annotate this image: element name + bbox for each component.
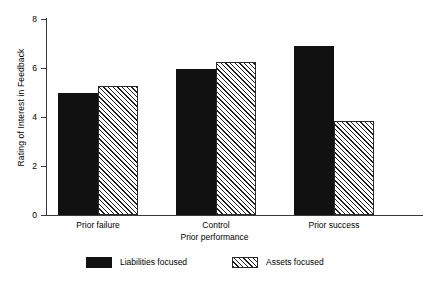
bar-control-assets-focused	[216, 62, 256, 215]
bar-control-liabilities-focused	[176, 69, 216, 215]
y-tick-label: 0	[24, 211, 37, 220]
legend-label: Assets focused	[266, 257, 324, 268]
legend-swatch	[86, 257, 112, 268]
x-tick-label: Control	[166, 220, 266, 230]
y-tick-label: 8	[24, 15, 37, 24]
legend-label: Liabilities focused	[120, 257, 187, 268]
x-axis-line	[46, 215, 423, 216]
y-axis-title: Rating of Interest in Feedback	[14, 0, 28, 215]
chart-legend: Liabilities focusedAssets focused	[0, 255, 429, 273]
y-tick-label: 4	[24, 113, 37, 122]
bar-prior-success-liabilities-focused	[294, 46, 334, 215]
bar-prior-failure-assets-focused	[98, 86, 138, 215]
bar-prior-failure-liabilities-focused	[58, 93, 98, 216]
y-tick-label: 2	[24, 162, 37, 171]
bar-prior-success-assets-focused	[334, 121, 374, 215]
legend-swatch	[232, 257, 258, 268]
x-tick-label: Prior failure	[48, 220, 148, 230]
legend-entry: Assets focused	[232, 255, 324, 269]
legend-entry: Liabilities focused	[86, 255, 187, 269]
x-tick-label: Prior success	[284, 220, 384, 230]
plot-area	[46, 19, 421, 215]
x-axis-title: Prior performance	[0, 232, 429, 242]
y-tick-label: 6	[24, 64, 37, 73]
y-tick-mark	[41, 215, 46, 216]
bar-chart-figure: Rating of Interest in Feedback 02468 Pri…	[0, 0, 429, 287]
